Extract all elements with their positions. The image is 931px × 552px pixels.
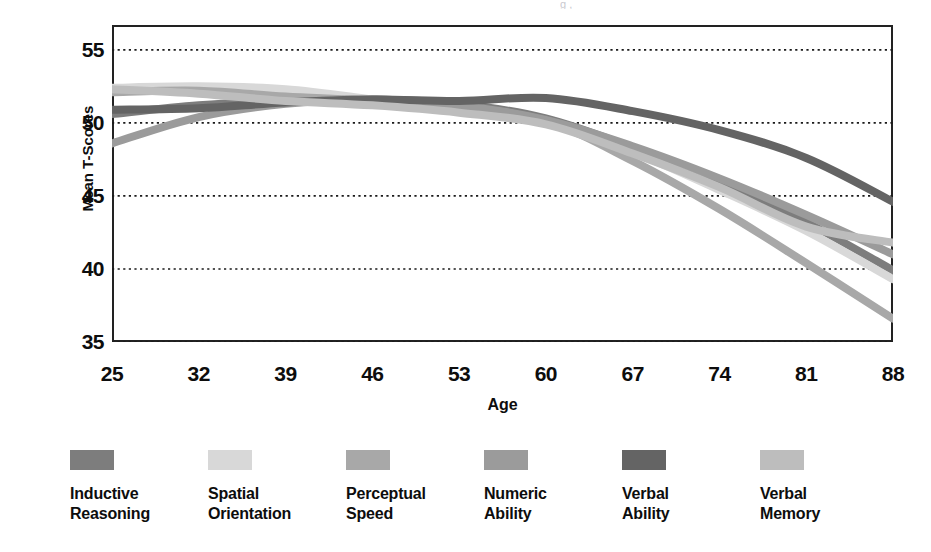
legend-label-line1: Verbal [622, 484, 772, 504]
legend-label-line2: Orientation [208, 504, 358, 524]
x-axis-label: Age [112, 396, 893, 414]
legend-label-line1: Spatial [208, 484, 358, 504]
x-axis-tick: 74 [708, 362, 730, 386]
legend-label-line1: Inductive [70, 484, 220, 504]
legend-item[interactable]: VerbalMemory [760, 450, 910, 524]
legend-item[interactable]: VerbalAbility [622, 450, 772, 524]
y-axis-label: Mean T-Scores [79, 64, 96, 254]
x-axis-tick: 46 [361, 362, 383, 386]
legend-item[interactable]: SpatialOrientation [208, 450, 358, 524]
scan-artifact-text: g , [560, 0, 890, 9]
legend-label-line2: Ability [484, 504, 634, 524]
y-axis-tick: 55 [62, 39, 104, 60]
x-axis-tick: 88 [882, 362, 904, 386]
legend-label: VerbalAbility [622, 484, 772, 524]
legend-label-line2: Speed [346, 504, 496, 524]
series-lines [112, 25, 893, 342]
legend-swatch [760, 450, 804, 470]
legend-label: NumericAbility [484, 484, 634, 524]
legend-label: PerceptualSpeed [346, 484, 496, 524]
legend-label-line2: Reasoning [70, 504, 220, 524]
legend-swatch [70, 450, 114, 470]
x-axis: 25323946536067748188 [112, 362, 893, 392]
y-axis-tick: 45 [62, 185, 104, 206]
legend-label-line1: Numeric [484, 484, 634, 504]
y-axis-tick: 35 [62, 331, 104, 352]
legend-label-line2: Ability [622, 504, 772, 524]
legend-label: VerbalMemory [760, 484, 910, 524]
x-axis-tick: 67 [621, 362, 643, 386]
chart-legend: InductiveReasoningSpatialOrientationPerc… [70, 450, 931, 550]
x-axis-tick: 60 [535, 362, 557, 386]
x-axis-tick: 32 [188, 362, 210, 386]
legend-label-line1: Verbal [760, 484, 910, 504]
x-axis-tick: 39 [274, 362, 296, 386]
plot-area [112, 25, 893, 342]
series-line-numeric-ability [112, 99, 893, 254]
legend-swatch [622, 450, 666, 470]
legend-label: InductiveReasoning [70, 484, 220, 524]
legend-label-line1: Perceptual [346, 484, 496, 504]
legend-label: SpatialOrientation [208, 484, 358, 524]
x-axis-tick: 25 [101, 362, 123, 386]
legend-label-line2: Memory [760, 504, 910, 524]
legend-swatch [208, 450, 252, 470]
legend-swatch [346, 450, 390, 470]
y-axis-tick: 50 [62, 112, 104, 133]
chart-figure: g , Mean T-Scores 5550454035 25323946536… [0, 0, 931, 552]
x-axis-tick: 53 [448, 362, 470, 386]
legend-item[interactable]: InductiveReasoning [70, 450, 220, 524]
x-axis-tick: 81 [795, 362, 817, 386]
y-axis-tick: 40 [62, 258, 104, 279]
legend-swatch [484, 450, 528, 470]
legend-item[interactable]: PerceptualSpeed [346, 450, 496, 524]
legend-item[interactable]: NumericAbility [484, 450, 634, 524]
